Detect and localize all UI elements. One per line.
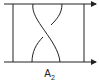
crossing-over-strand <box>33 4 60 62</box>
crossing-under-strand <box>32 37 43 62</box>
diagram-label: A2 <box>0 68 99 81</box>
crossing-under-strand <box>51 4 62 25</box>
